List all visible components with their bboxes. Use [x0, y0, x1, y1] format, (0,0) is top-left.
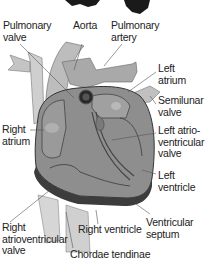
label-chordae-tendinae: Chordae tendinae — [70, 249, 150, 261]
right-atrium-highlight — [45, 123, 59, 133]
aortic-opening-inner — [83, 94, 90, 101]
label-semilunar-valve: Semilunar valve — [158, 95, 203, 118]
label-ventricular-septum: Ventricular septum — [146, 217, 193, 240]
label-pulmonary-valve: Pulmonary valve — [3, 20, 51, 43]
label-left-ventricle: Left ventricle — [158, 170, 195, 193]
label-right-ventricle: Right ventricle — [78, 224, 142, 236]
label-left-atrium: Left atrium — [158, 63, 186, 86]
cropped-shape-right — [124, 0, 150, 14]
cropped-shape-left — [65, 0, 100, 7]
pulmonary-artery-vessel — [62, 58, 137, 88]
label-right-atrioventricular-valve: Right atrioventricular valve — [2, 222, 68, 257]
pulmonary-vein-left — [8, 55, 30, 72]
label-pulmonary-artery: Pulmonary artery — [111, 20, 159, 43]
left-atrium-highlight — [111, 102, 121, 110]
label-right-atrium: Right atrium — [2, 124, 30, 147]
label-aorta: Aorta — [73, 20, 97, 32]
label-left-atrioventricular-valve: Left atrio- ventricular valve — [158, 125, 204, 160]
